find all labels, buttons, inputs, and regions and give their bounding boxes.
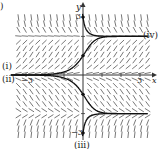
slope-segment [113, 58, 117, 63]
slope-segment [121, 132, 122, 138]
slope-segment [30, 27, 33, 33]
slope-segment [15, 36, 21, 37]
slope-segment [126, 40, 131, 44]
slope-segment [126, 108, 131, 111]
slope-segment [106, 72, 112, 73]
slope-segment [75, 101, 79, 106]
slope-segment [146, 95, 149, 100]
slope-segment [41, 72, 47, 73]
slope-segment [49, 101, 53, 106]
slope-segment [67, 36, 73, 37]
slope-segment [133, 27, 136, 33]
slope-segment [48, 78, 54, 81]
slope-segment [31, 14, 32, 20]
slope-segment [76, 21, 77, 27]
slope-segment [126, 101, 130, 106]
slope-segment [126, 65, 131, 69]
slope-segment [108, 132, 109, 138]
slope-segment [138, 72, 144, 73]
slope-segment [35, 36, 41, 37]
slope-segment [28, 72, 34, 73]
slope-segment [120, 95, 123, 100]
slope-segment [88, 89, 92, 94]
slope-segment [56, 27, 59, 33]
slope-segment [134, 21, 135, 27]
slope-segment [61, 83, 65, 88]
slope-segment [93, 72, 99, 73]
slope-segment [42, 108, 47, 111]
slope-segment [87, 83, 91, 88]
slope-segment [127, 119, 129, 125]
slope-segment [145, 40, 150, 44]
slope-segment [23, 46, 27, 51]
curve-label-iii: (iii) [74, 141, 90, 149]
slope-segment [119, 115, 124, 118]
slope-segment [30, 46, 34, 51]
slope-segment [62, 101, 66, 106]
slope-segment [139, 52, 142, 57]
slope-segment [94, 27, 97, 33]
slope-segment [37, 21, 38, 27]
slope-segment [62, 89, 66, 94]
slope-segment [62, 27, 65, 33]
slope-segment [16, 115, 21, 118]
slope-segment [94, 83, 98, 88]
slope-segment [37, 119, 39, 125]
slope-segment [94, 46, 98, 51]
slope-segment [56, 119, 58, 125]
slope-segment [55, 65, 60, 69]
slope-segment [126, 46, 130, 51]
slope-segment [112, 72, 118, 73]
slope-segment [55, 40, 60, 44]
slope-segment [31, 132, 32, 138]
slope-segment [30, 95, 33, 100]
slope-segment [127, 27, 130, 33]
slope-segment [56, 21, 57, 27]
slope-segment [121, 126, 122, 132]
slope-segment [139, 58, 143, 63]
slope-segment [41, 36, 47, 37]
slope-segment [50, 21, 51, 27]
slope-segment [94, 52, 97, 57]
slope-segment [132, 115, 137, 118]
slope-segment [107, 46, 111, 51]
slope-segment [49, 27, 52, 33]
slope-segment [126, 115, 131, 118]
slope-segment [120, 89, 124, 94]
slope-field-plot [0, 0, 160, 149]
slope-segment [17, 27, 20, 33]
slope-segment [68, 101, 72, 106]
slope-segment [57, 132, 58, 138]
slope-segment [114, 27, 117, 33]
slope-segment [23, 89, 27, 94]
slope-segment [43, 95, 46, 100]
slope-segment [75, 52, 78, 57]
slope-segment [115, 126, 116, 132]
y-tick-label-pos: 3 [76, 13, 81, 21]
slope-segment [121, 21, 122, 27]
slope-segment [101, 119, 103, 125]
slope-segment [127, 21, 128, 27]
slope-segment [49, 58, 53, 63]
slope-segment [36, 27, 39, 33]
x-axis-label: x [152, 77, 157, 85]
curve-label-i: (i) [2, 62, 12, 71]
slope-segment [101, 89, 105, 94]
slope-segment [139, 46, 143, 51]
slope-segment [113, 46, 117, 51]
slope-segment [96, 132, 97, 138]
slope-segment [43, 119, 45, 125]
slope-segment [36, 95, 39, 100]
slope-segment [94, 89, 98, 94]
slope-segment [36, 46, 40, 51]
slope-segment [147, 21, 148, 27]
slope-segment [62, 95, 65, 100]
slope-segment [139, 101, 143, 106]
slope-segment [93, 65, 98, 69]
slope-segment [74, 40, 79, 44]
slope-segment [119, 72, 125, 73]
slope-segment [17, 89, 21, 94]
slope-segment [43, 52, 46, 57]
slope-segment [100, 83, 104, 88]
slope-segment [18, 14, 19, 20]
